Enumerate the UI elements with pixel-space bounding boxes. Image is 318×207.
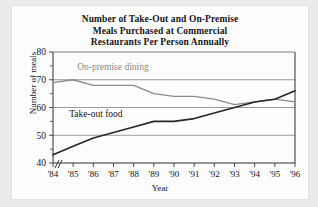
chart-card: Number of Take-Out and On-Premise Meals … (12, 6, 308, 199)
svg-text:On-premise dining: On-premise dining (77, 62, 149, 72)
svg-text:'85: '85 (68, 169, 79, 179)
svg-text:'93: '93 (229, 169, 240, 179)
y-tick-labels: 4050607080 (37, 47, 47, 168)
svg-text:'91: '91 (189, 169, 200, 179)
svg-text:80: 80 (37, 47, 47, 57)
x-tick-marks (53, 163, 295, 167)
svg-text:'89: '89 (149, 169, 160, 179)
svg-text:Take-out food: Take-out food (69, 109, 123, 119)
axis-break-icon (55, 160, 62, 168)
svg-text:'95: '95 (270, 169, 281, 179)
plot-area: 4050607080 '84'85'86'87'88'89'90'91'92'9… (12, 6, 308, 199)
svg-text:'84: '84 (48, 169, 59, 179)
svg-text:60: 60 (37, 103, 47, 113)
svg-text:'96: '96 (290, 169, 301, 179)
svg-text:'94: '94 (249, 169, 260, 179)
y-tick-marks (49, 52, 53, 163)
svg-text:'92: '92 (209, 169, 220, 179)
svg-text:'88: '88 (128, 169, 139, 179)
x-tick-labels: '84'85'86'87'88'89'90'91'92'93'94'95'96 (48, 169, 301, 179)
svg-text:'90: '90 (169, 169, 180, 179)
svg-text:'86: '86 (88, 169, 99, 179)
chart-svg: 4050607080 '84'85'86'87'88'89'90'91'92'9… (12, 6, 308, 199)
svg-text:'87: '87 (108, 169, 119, 179)
svg-text:70: 70 (37, 75, 47, 85)
svg-text:50: 50 (37, 131, 47, 141)
series-annotations: On-premise diningTake-out food (69, 62, 149, 119)
svg-text:40: 40 (37, 158, 47, 168)
